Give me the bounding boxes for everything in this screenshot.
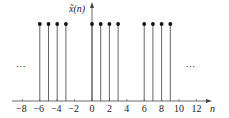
stems [38, 22, 172, 101]
stem-marker [116, 22, 120, 26]
stem-marker [38, 22, 42, 26]
ellipsis-left: ··· [16, 62, 26, 72]
stem-marker [142, 22, 146, 26]
ellipsis-right: ··· [185, 62, 195, 72]
x-tick-label: −4 [51, 104, 62, 114]
x-tick-label: 4 [124, 104, 129, 114]
x-tick-label: 8 [159, 104, 164, 114]
x-tick-label: −2 [68, 104, 79, 114]
stem-marker [90, 22, 94, 26]
x-tick-label: 6 [142, 104, 147, 114]
stem-marker [99, 22, 103, 26]
stem-marker [151, 22, 155, 26]
axes [12, 2, 212, 103]
x-tick-label: −6 [33, 104, 44, 114]
x-tick-label: 10 [174, 104, 184, 114]
stem-marker [108, 22, 112, 26]
stem-marker [55, 22, 59, 26]
stem-marker [64, 22, 68, 26]
x-axis-label: n [210, 104, 215, 114]
stem-marker [168, 22, 172, 26]
stem-marker [47, 22, 51, 26]
x-tick-label: 2 [107, 104, 112, 114]
x-tick-label: 0 [90, 104, 95, 114]
x-tick-label: 12 [191, 104, 201, 114]
stem-marker [160, 22, 164, 26]
y-axis-arrow-icon [90, 2, 94, 8]
x-tick-label: −8 [16, 104, 27, 114]
stem-plot [0, 0, 229, 118]
y-axis-label: x̃(n) [69, 4, 85, 14]
